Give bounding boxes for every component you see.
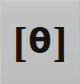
ipa-theta-button[interactable]: [ θ ]: [0, 0, 80, 84]
right-bracket-glyph: ]: [53, 20, 67, 63]
theta-glyph: θ: [27, 24, 52, 58]
left-bracket-glyph: [: [13, 20, 27, 63]
phonetic-symbol-group: [ θ ]: [13, 20, 67, 63]
